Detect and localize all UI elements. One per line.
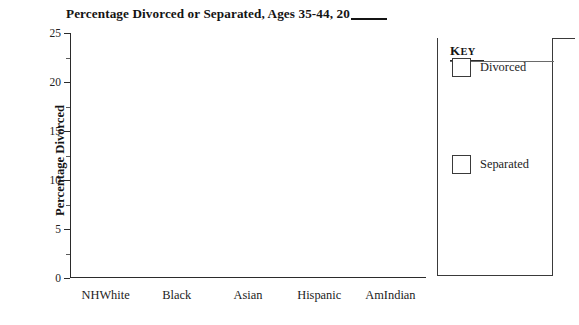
x-axis-label-black: Black — [141, 288, 212, 303]
legend-swatch-divorced — [452, 58, 471, 77]
x-axis-label-nhwhite: NHWhite — [70, 288, 141, 303]
legend-heading: KEY — [450, 43, 476, 59]
legend-heading-rest: EY — [460, 46, 475, 57]
plot-area — [71, 33, 426, 277]
legend-entry-separated[interactable]: Separated — [452, 155, 529, 174]
legend-label-separated: Separated — [480, 157, 529, 172]
y-axis-title: Percentage Divorced — [53, 31, 68, 291]
plot-area-wrapper: 0 5 10 15 20 25 Percentage Divorced — [70, 33, 426, 278]
chart-title: Percentage Divorced or Separated, Ages 3… — [66, 6, 387, 22]
x-axis-category-labels: NHWhite Black Asian Hispanic AmIndian — [70, 288, 426, 303]
legend-entry-divorced[interactable]: Divorced — [452, 58, 526, 77]
x-axis-label-hispanic: Hispanic — [284, 288, 355, 303]
x-axis-label-asian: Asian — [212, 288, 283, 303]
legend-heading-initial: K — [450, 43, 460, 58]
legend-key-box: KEY Divorced Separated — [437, 38, 553, 276]
chart-title-text: Percentage Divorced or Separated, Ages 3… — [66, 6, 350, 21]
x-axis-line — [70, 277, 426, 278]
legend-swatch-separated — [452, 155, 471, 174]
legend-label-divorced: Divorced — [480, 60, 526, 75]
y-axis-line — [70, 33, 71, 278]
chart-title-blank-fill-in — [351, 18, 387, 20]
x-axis-label-amindian: AmIndian — [355, 288, 426, 303]
